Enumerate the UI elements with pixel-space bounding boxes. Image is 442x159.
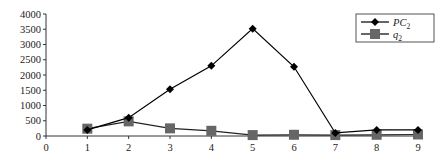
x-tick-label: 0	[43, 142, 48, 153]
y-tick-label: 2000	[20, 70, 41, 81]
y-tick-label: 4000	[20, 9, 41, 20]
x-axis: 0123456789	[43, 136, 422, 153]
x-tick-label: 4	[209, 142, 215, 153]
x-tick-label: 8	[374, 142, 379, 153]
y-tick-label: 500	[25, 115, 41, 126]
y-tick-label: 1000	[20, 100, 41, 111]
y-tick-label: 3500	[20, 24, 41, 35]
y-tick-label: 0	[36, 131, 41, 142]
x-tick-label: 9	[415, 142, 420, 153]
legend: PC2q2	[356, 14, 434, 43]
x-tick-label: 1	[85, 142, 90, 153]
series-q2	[82, 116, 423, 140]
chart-canvas: 05001000150020002500300035004000 0123456…	[0, 0, 442, 159]
data-point-marker	[166, 85, 174, 93]
x-tick-label: 3	[167, 142, 172, 153]
line-chart: 05001000150020002500300035004000 0123456…	[0, 0, 442, 159]
y-tick-label: 2500	[20, 54, 41, 65]
x-tick-label: 7	[333, 142, 338, 153]
legend-marker-icon	[370, 29, 380, 39]
x-tick-label: 2	[126, 142, 131, 153]
series-line	[87, 29, 418, 133]
data-point-marker	[165, 123, 175, 133]
x-tick-label: 6	[291, 142, 296, 153]
x-tick-label: 5	[250, 142, 255, 153]
y-tick-label: 1500	[20, 85, 41, 96]
y-tick-label: 3000	[20, 39, 41, 50]
data-point-marker	[289, 130, 299, 140]
data-point-marker	[206, 126, 216, 136]
y-axis: 05001000150020002500300035004000	[20, 9, 46, 142]
data-point-marker	[248, 130, 258, 140]
